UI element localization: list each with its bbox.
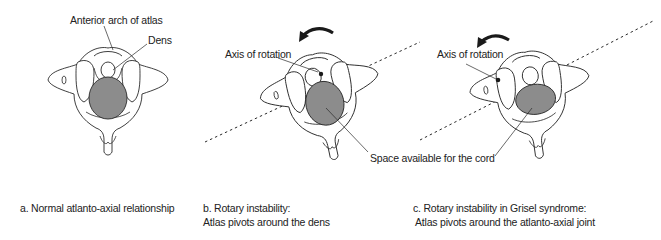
panel-c-vertebra xyxy=(466,44,600,167)
label-anterior-arch: Anterior arch of atlas xyxy=(70,14,162,26)
caption-a: a. Normal atlanto-axial relationship xyxy=(20,201,174,215)
rotation-arrow-b xyxy=(303,29,333,36)
caption-c-line-2: Atlas pivots around the atlanto-axial jo… xyxy=(413,215,595,229)
caption-b-line-1: b. Rotary instability: xyxy=(203,201,330,215)
label-axis-of-rotation-c: Axis of rotation xyxy=(437,48,503,60)
caption-c-line-1: c. Rotary instability in Grisel syndrome… xyxy=(413,201,595,215)
label-dens: Dens xyxy=(148,34,172,46)
caption-c: c. Rotary instability in Grisel syndrome… xyxy=(413,201,595,229)
caption-b: b. Rotary instability: Atlas pivots arou… xyxy=(203,201,330,229)
label-space-available: Space available for the cord xyxy=(370,152,495,164)
caption-a-line-1: a. Normal atlanto-axial relationship xyxy=(20,201,174,215)
caption-b-line-2: Atlas pivots around the dens xyxy=(203,215,330,229)
panel-a-vertebra xyxy=(48,48,168,155)
label-axis-of-rotation-b: Axis of rotation xyxy=(225,48,291,60)
